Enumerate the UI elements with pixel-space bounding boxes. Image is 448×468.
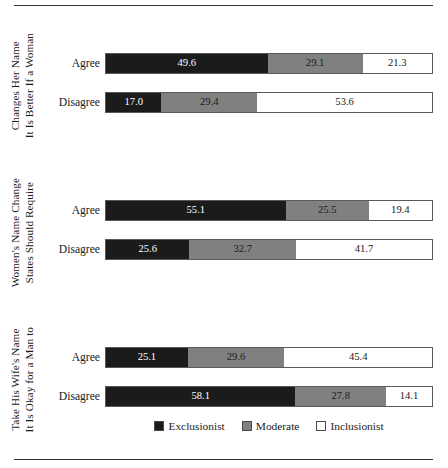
bar-segment-moderate: 29.6: [188, 348, 284, 367]
category-label: Agree: [72, 200, 100, 221]
stacked-bar: 58.1 27.8 14.1: [105, 386, 433, 407]
bar-segment-moderate: 27.8: [295, 387, 386, 406]
legend-swatch-icon: [242, 421, 252, 431]
category-label: Disagree: [59, 386, 100, 407]
bar-segment-inclusionist: 21.3: [363, 54, 432, 73]
panel-axis-title-line: States Should Require: [23, 182, 37, 284]
panel-axis-title: It Is Better If a Woman Changes Her Name: [0, 18, 46, 153]
category-label: Disagree: [59, 239, 100, 260]
bar-row: Disagree 25.6 32.7 41.7: [0, 239, 448, 260]
bar-row: Disagree 58.1 27.8 14.1: [0, 386, 448, 407]
bar-segment-exclusionist: 58.1: [106, 387, 295, 406]
bar-row: Agree 55.1 25.5 19.4: [0, 200, 448, 221]
legend-swatch-icon: [154, 421, 164, 431]
bottom-rule: [14, 459, 433, 460]
top-rule: [14, 5, 433, 6]
bar-segment-exclusionist: 17.0: [106, 93, 161, 112]
legend-item-exclusionist: Exclusionist: [154, 420, 224, 432]
legend-label: Inclusionist: [330, 420, 383, 432]
bar-segment-moderate: 29.4: [161, 93, 257, 112]
stacked-bar: 55.1 25.5 19.4: [105, 200, 433, 221]
bar-row: Agree 49.6 29.1 21.3: [0, 53, 448, 74]
legend-label: Moderate: [256, 420, 300, 432]
bar-segment-inclusionist: 45.4: [284, 348, 432, 367]
chart-legend: Exclusionist Moderate Inclusionist: [105, 417, 433, 435]
bar-segment-inclusionist: 41.7: [296, 240, 432, 259]
stacked-bar: 25.1 29.6 45.4: [105, 347, 433, 368]
panel-axis-title-line: It Is Okay for a Man to: [23, 327, 37, 432]
legend-item-inclusionist: Inclusionist: [316, 420, 383, 432]
legend-swatch-icon: [316, 421, 326, 431]
category-label: Agree: [72, 53, 100, 74]
panel-axis-title-line: Take His Wife's Name: [9, 328, 23, 430]
bar-segment-exclusionist: 55.1: [106, 201, 286, 220]
bar-segment-moderate: 29.1: [268, 54, 363, 73]
panel-axis-title-line: Women's Name Change: [9, 178, 23, 287]
bar-row: Agree 25.1 29.6 45.4: [0, 347, 448, 368]
stacked-bar: 17.0 29.4 53.6: [105, 92, 433, 113]
bar-segment-exclusionist: 25.1: [106, 348, 188, 367]
panel-axis-title: It Is Okay for a Man to Take His Wife's …: [0, 312, 46, 447]
chart-panel: States Should Require Women's Name Chang…: [0, 165, 448, 305]
bar-segment-inclusionist: 53.6: [257, 93, 432, 112]
panel-axis-title-line: It Is Better If a Woman: [23, 33, 37, 138]
bar-segment-moderate: 25.5: [286, 201, 369, 220]
category-label: Agree: [72, 347, 100, 368]
bar-segment-inclusionist: 19.4: [369, 201, 432, 220]
stacked-bar: 49.6 29.1 21.3: [105, 53, 433, 74]
bar-segment-inclusionist: 14.1: [386, 387, 432, 406]
legend-item-moderate: Moderate: [242, 420, 300, 432]
bar-segment-exclusionist: 25.6: [106, 240, 189, 259]
panel-axis-title: States Should Require Women's Name Chang…: [0, 165, 46, 300]
bar-row: Disagree 17.0 29.4 53.6: [0, 92, 448, 113]
bar-segment-exclusionist: 49.6: [106, 54, 268, 73]
bar-segment-moderate: 32.7: [189, 240, 296, 259]
category-label: Disagree: [59, 92, 100, 113]
stacked-bar: 25.6 32.7 41.7: [105, 239, 433, 260]
legend-label: Exclusionist: [168, 420, 224, 432]
chart-panel: It Is Better If a Woman Changes Her Name…: [0, 18, 448, 158]
